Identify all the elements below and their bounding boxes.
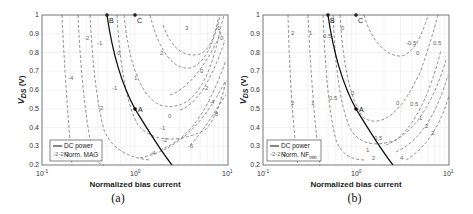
svg-text:101: 101 [443, 168, 454, 177]
svg-text:100: 100 [351, 168, 362, 177]
svg-text:0.7: 0.7 [250, 67, 260, 74]
svg-text:0.6: 0.6 [250, 86, 260, 93]
x-axis-label-a: Normalized bias current [89, 180, 180, 189]
svg-text:-6: -6 [188, 143, 194, 149]
svg-text:0.8: 0.8 [250, 49, 260, 56]
point-a [354, 107, 358, 111]
chart-a: -4 -2 -1 -2 -1 0 1 2 3 0 -1 -2 -4 -6 0 -… [0, 0, 236, 214]
caption-a: (a) [0, 191, 236, 206]
svg-text:10-1: 10-1 [257, 168, 269, 177]
svg-text:101: 101 [222, 168, 233, 177]
chart-b: 2 2 1 1 0.5 0.5 0 0 -0.5 0 0.5 0 0.5 1 2… [236, 0, 473, 214]
svg-text:0.2: 0.2 [29, 161, 39, 168]
legend-a: DC power -2-2-2 Norm. MAG [50, 140, 102, 161]
svg-text:1: 1 [419, 115, 423, 121]
svg-text:0: 0 [341, 25, 345, 31]
point-c-label: C [358, 17, 363, 24]
svg-text:-4: -4 [209, 99, 215, 105]
svg-text:0.3: 0.3 [250, 142, 260, 149]
x-axis-label-b: Normalized bias current [310, 180, 401, 189]
legend-b: DC power -2-2-2 Norm. NFmin [267, 140, 321, 161]
svg-text:0.9: 0.9 [250, 30, 260, 37]
svg-text:-0.5: -0.5 [406, 40, 417, 46]
svg-text:100: 100 [130, 168, 141, 177]
legend-dc-power: DC power [64, 142, 94, 150]
svg-text:1: 1 [309, 30, 313, 36]
svg-text:-2: -2 [203, 85, 209, 91]
point-c-label: C [137, 17, 142, 24]
legend-norm-mag: Norm. MAG [64, 151, 98, 158]
svg-text:2: 2 [291, 30, 295, 36]
svg-text:1: 1 [366, 147, 370, 153]
svg-text:0.5: 0.5 [250, 105, 260, 112]
svg-text:0.5: 0.5 [29, 105, 39, 112]
svg-text:-4: -4 [150, 150, 156, 156]
svg-text:-4: -4 [68, 75, 74, 81]
svg-text:2: 2 [372, 155, 376, 161]
svg-text:0: 0 [351, 90, 355, 96]
svg-text:0.4: 0.4 [250, 124, 260, 131]
panel-a: -4 -2 -1 -2 -1 0 1 2 3 0 -1 -2 -4 -6 0 -… [0, 0, 236, 214]
svg-text:0: 0 [416, 50, 420, 56]
svg-text:0: 0 [396, 100, 400, 106]
legend-dc-power: DC power [281, 142, 311, 150]
y-ticks-a: 1 0.9 0.8 0.7 0.6 0.5 0.4 0.3 0.2 [29, 11, 39, 168]
svg-text:1: 1 [311, 100, 315, 106]
svg-text:0: 0 [220, 35, 224, 41]
svg-text:-2: -2 [84, 35, 90, 41]
y-axis-label-a: VDS (V) [16, 75, 27, 104]
x-ticks-b: 10-1 100 101 [257, 168, 454, 177]
point-b-label: B [330, 17, 335, 24]
svg-text:1: 1 [256, 11, 260, 18]
panel-b: 2 2 1 1 0.5 0.5 0 0 -0.5 0 0.5 0 0.5 1 2… [236, 0, 473, 214]
svg-text:0.8: 0.8 [29, 49, 39, 56]
svg-text:0.5: 0.5 [433, 40, 442, 46]
svg-text:-1: -1 [112, 85, 118, 91]
svg-text:0.7: 0.7 [29, 67, 39, 74]
y-axis-label-b: VDS (V) [238, 75, 249, 104]
point-a [133, 107, 137, 111]
svg-text:0.4: 0.4 [29, 124, 39, 131]
svg-text:-1: -1 [215, 25, 221, 31]
svg-text:-2: -2 [98, 105, 104, 111]
svg-text:0.9: 0.9 [29, 30, 39, 37]
svg-text:4: 4 [400, 155, 404, 161]
svg-text:2: 2 [291, 100, 295, 106]
svg-text:0.2: 0.2 [250, 161, 260, 168]
y-ticks-b: 1 0.9 0.8 0.7 0.6 0.5 0.4 0.3 0.2 [250, 11, 260, 168]
caption-b: (b) [236, 191, 473, 206]
svg-text:0.5: 0.5 [410, 101, 419, 107]
operating-points-a: B C A [105, 13, 143, 113]
svg-text:-8: -8 [213, 111, 219, 117]
svg-text:-1: -1 [97, 40, 103, 46]
svg-text:2: 2 [160, 50, 164, 56]
svg-text:-2: -2 [162, 137, 168, 143]
svg-text:-1: -1 [160, 125, 166, 131]
svg-text:0.5: 0.5 [329, 95, 338, 101]
contour-labels-a: -4 -2 -1 -2 -1 0 1 2 3 0 -1 -2 -4 -6 0 -… [68, 25, 224, 156]
svg-text:0.3: 0.3 [29, 142, 39, 149]
svg-text:0.6: 0.6 [29, 86, 39, 93]
svg-text:0: 0 [168, 113, 172, 119]
point-a-label: A [138, 106, 143, 113]
svg-text:1: 1 [35, 11, 39, 18]
svg-text:3: 3 [185, 25, 189, 31]
svg-text:10-1: 10-1 [36, 168, 48, 177]
point-a-label: A [359, 106, 364, 113]
point-b-label: B [109, 17, 114, 24]
x-ticks-a: 10-1 100 101 [36, 168, 233, 177]
